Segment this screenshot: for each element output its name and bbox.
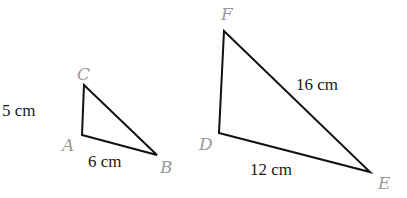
vertex-label-f: F [220, 4, 234, 24]
triangle-def: F D E 16 cm 12 cm [198, 4, 391, 193]
side-label-ab: 6 cm [88, 152, 122, 171]
triangle-abc-outline [82, 85, 157, 155]
vertex-label-d: D [198, 134, 213, 154]
triangle-def-outline [219, 31, 370, 172]
side-label-fe: 16 cm [296, 75, 338, 94]
vertex-label-a: A [60, 135, 74, 155]
side-label-ac: 5 cm [2, 101, 36, 120]
side-label-de: 12 cm [250, 160, 292, 179]
vertex-label-e: E [377, 173, 391, 193]
similar-triangles-diagram: C A B 5 cm 6 cm F D E 16 cm 12 cm [0, 0, 407, 198]
vertex-label-c: C [77, 64, 90, 84]
vertex-label-b: B [159, 157, 173, 177]
triangle-abc: C A B 5 cm 6 cm [2, 64, 173, 177]
